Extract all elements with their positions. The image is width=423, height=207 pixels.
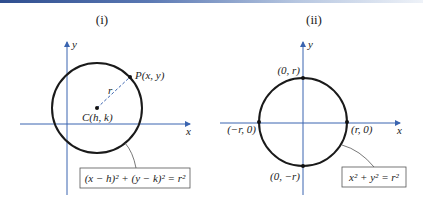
x-axis-label: x <box>185 125 191 137</box>
x-axis-label: x <box>396 124 402 136</box>
center-point <box>95 106 99 110</box>
bottom-label: (0, −r) <box>270 170 300 183</box>
center-label: C(h, k) <box>82 111 113 124</box>
top-label: (0, r) <box>277 64 300 77</box>
equation-text: (x − h)² + (y − k)² = r² <box>85 172 186 185</box>
radius-label: r <box>108 84 113 96</box>
bottom-point <box>301 164 305 168</box>
figure-ii-title: (ii) <box>306 12 322 27</box>
point-p-label: P(x, y) <box>134 69 165 82</box>
figure-ii: (ii) y x (0, r) (0, −r) (−r, 0) (r, 0) x… <box>220 12 406 195</box>
right-label: (r, 0) <box>351 123 373 136</box>
y-axis-label: y <box>71 38 77 50</box>
equation-leader <box>125 143 136 168</box>
figure-i-title: (i) <box>96 12 108 27</box>
left-point <box>257 120 261 124</box>
y-axis-label: y <box>307 38 313 50</box>
right-point <box>345 120 349 124</box>
point-p <box>128 75 132 79</box>
top-point <box>301 76 305 80</box>
equation-leader <box>342 145 374 167</box>
figure-i: (i) y x P(x, y) r C(h, k) (x − h)² + (y … <box>20 12 191 195</box>
radius-line <box>97 77 130 108</box>
left-label: (−r, 0) <box>227 123 256 136</box>
equation-text: x² + y² = r² <box>348 171 399 183</box>
circle-diagrams: (i) y x P(x, y) r C(h, k) (x − h)² + (y … <box>0 0 423 207</box>
